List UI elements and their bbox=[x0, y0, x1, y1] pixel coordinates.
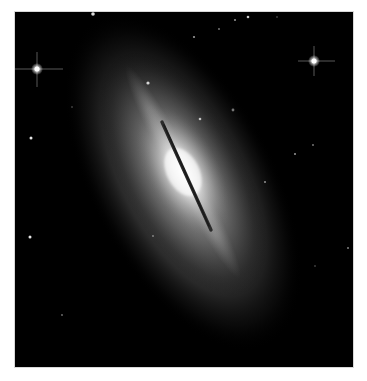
bright-star-left bbox=[15, 52, 63, 87]
bright-star-right bbox=[298, 46, 335, 76]
galaxy-render bbox=[15, 12, 354, 368]
galaxy-image: Grayscale telescope image of an elongate… bbox=[14, 11, 354, 368]
